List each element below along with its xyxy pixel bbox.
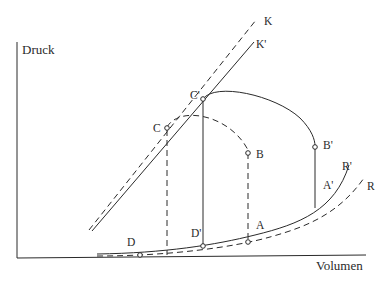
point-b bbox=[246, 151, 251, 156]
point-d bbox=[138, 253, 143, 258]
label-b: B bbox=[256, 148, 264, 160]
x-axis bbox=[17, 255, 366, 258]
label-a: A bbox=[256, 219, 265, 231]
line-k bbox=[89, 20, 256, 230]
point-c-prime bbox=[201, 97, 206, 102]
point-a bbox=[246, 240, 251, 245]
label-k: K bbox=[264, 15, 273, 27]
pv-diagram: Druck Volumen K K' R R' C C' B B' A A' D… bbox=[0, 0, 388, 284]
y-axis-label: Druck bbox=[22, 42, 55, 57]
solid-arc-c-b bbox=[203, 91, 315, 146]
label-a-prime: A' bbox=[323, 179, 333, 191]
line-k-prime bbox=[92, 42, 254, 231]
label-r: R bbox=[367, 180, 375, 192]
point-b-prime bbox=[313, 145, 318, 150]
label-c: C bbox=[153, 122, 161, 134]
label-k-prime: K' bbox=[256, 38, 266, 50]
point-c bbox=[165, 126, 170, 131]
label-r-prime: R' bbox=[342, 160, 352, 172]
dashed-arc-c-b bbox=[167, 115, 248, 150]
label-d-prime: D' bbox=[191, 227, 201, 239]
point-d-prime bbox=[201, 244, 206, 249]
label-b-prime: B' bbox=[323, 139, 333, 151]
x-axis-label: Volumen bbox=[316, 258, 363, 273]
label-c-prime: C' bbox=[190, 89, 200, 101]
label-d: D bbox=[127, 236, 135, 248]
